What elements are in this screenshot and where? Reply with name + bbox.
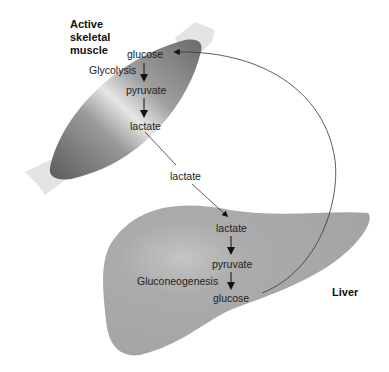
muscle-label-line: muscle bbox=[70, 44, 110, 57]
cori-cycle-diagram bbox=[0, 0, 389, 372]
muscle-pyruvate: pyruvate bbox=[126, 85, 166, 96]
gluconeogenesis-label: Gluconeogenesis bbox=[137, 276, 218, 287]
liver-glucose: glucose bbox=[213, 293, 249, 304]
muscle-label-line: Active bbox=[70, 18, 110, 31]
muscle-glucose: glucose bbox=[127, 49, 163, 60]
liver-label: Liver bbox=[332, 286, 358, 299]
muscle-label-line: skeletal bbox=[70, 31, 110, 44]
muscle-lactate: lactate bbox=[130, 121, 161, 132]
glycolysis-label: Glycolysis bbox=[89, 65, 136, 76]
blood-lactate: lactate bbox=[170, 171, 201, 182]
muscle-label: Active skeletal muscle bbox=[70, 18, 110, 57]
arrow-lactate-to-blood bbox=[145, 132, 176, 165]
muscle-shape bbox=[50, 40, 202, 180]
liver-lactate: lactate bbox=[216, 223, 247, 234]
liver-pyruvate: pyruvate bbox=[212, 259, 252, 270]
